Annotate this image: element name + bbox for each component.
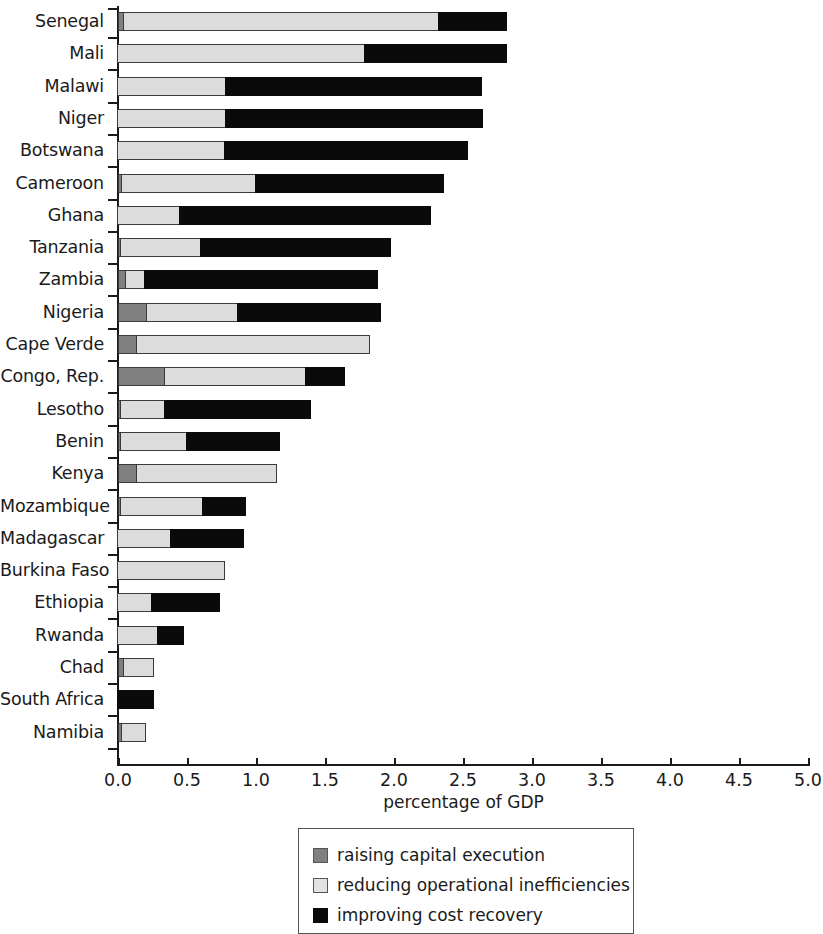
bar-row: Kenya	[0, 458, 823, 489]
legend-item-recovery: improving cost recovery	[313, 900, 633, 930]
bar-segment-capital	[118, 464, 137, 483]
x-axis-tick-label: 3.0	[502, 770, 562, 790]
bar-segment-recovery	[200, 238, 390, 257]
stacked-bar	[118, 723, 146, 742]
stacked-bar	[118, 497, 246, 516]
y-axis-category-label: Congo, Rep.	[0, 361, 104, 392]
x-axis-tick	[670, 758, 672, 766]
bar-row: Benin	[0, 426, 823, 457]
y-axis-category-label: Tanzania	[0, 232, 104, 263]
legend-label-operational: reducing operational inefficiencies	[337, 875, 630, 895]
x-axis-tick-label: 0.0	[88, 770, 148, 790]
bar-row: Ethiopia	[0, 587, 823, 618]
bar-segment-operational	[123, 12, 439, 31]
bar-segment-recovery	[364, 44, 506, 63]
y-axis-category-label: Cameroon	[0, 168, 104, 199]
bar-row: Madagascar	[0, 523, 823, 554]
y-axis-category-label: Botswana	[0, 135, 104, 166]
bar-row: Senegal	[0, 6, 823, 37]
x-axis-tick	[187, 758, 189, 766]
legend-swatch-capital-icon	[313, 848, 328, 863]
stacked-bar	[118, 464, 277, 483]
y-axis-tick	[108, 522, 118, 524]
x-axis-tick	[394, 758, 396, 766]
y-axis-tick	[108, 295, 118, 297]
bar-segment-recovery	[151, 593, 220, 612]
bar-row: Mali	[0, 38, 823, 69]
x-axis-tick	[532, 758, 534, 766]
stacked-bar	[118, 206, 431, 225]
y-axis-tick	[108, 457, 118, 459]
y-axis-category-label: South Africa	[0, 684, 104, 715]
y-axis-tick	[108, 37, 118, 39]
stacked-bar	[118, 367, 345, 386]
stacked-bar	[118, 593, 220, 612]
stacked-bar	[118, 12, 507, 31]
bar-segment-recovery	[255, 174, 444, 193]
x-axis-tick	[601, 758, 603, 766]
x-axis-tick	[325, 758, 327, 766]
stacked-bar	[118, 238, 391, 257]
x-axis-tick	[118, 758, 120, 766]
y-axis-category-label: Lesotho	[0, 394, 104, 425]
bar-segment-operational	[125, 270, 144, 289]
bar-row: Congo, Rep.	[0, 361, 823, 392]
bar-segment-recovery	[144, 270, 379, 289]
stacked-bar	[118, 432, 280, 451]
bar-segment-operational	[136, 464, 277, 483]
bar-row: Namibia	[0, 717, 823, 748]
y-axis-tick	[108, 683, 118, 685]
stacked-bar	[118, 658, 154, 677]
stacked-bar	[118, 626, 184, 645]
x-axis-title: percentage of GDP	[0, 792, 823, 812]
y-axis-tick	[108, 554, 118, 556]
y-axis-category-label: Ethiopia	[0, 587, 104, 618]
bar-segment-recovery	[186, 432, 280, 451]
y-axis-category-label: Nigeria	[0, 297, 104, 328]
bar-segment-recovery	[305, 367, 345, 386]
bar-segment-capital	[118, 367, 165, 386]
y-axis-category-label: Mali	[0, 38, 104, 69]
bar-segment-operational	[117, 561, 225, 580]
y-axis-category-label: Madagascar	[0, 523, 104, 554]
bar-segment-recovery	[237, 303, 381, 322]
y-axis-tick	[108, 618, 118, 620]
stacked-bar	[118, 561, 225, 580]
stacked-bar	[118, 529, 244, 548]
stacked-bar	[118, 141, 468, 160]
legend-item-operational: reducing operational inefficiencies	[313, 870, 633, 900]
x-axis-tick-label: 1.0	[226, 770, 286, 790]
bar-row: Nigeria	[0, 297, 823, 328]
bar-segment-operational	[117, 626, 158, 645]
bar-row: Malawi	[0, 71, 823, 102]
bar-row: Rwanda	[0, 620, 823, 651]
y-axis-tick	[108, 263, 118, 265]
y-axis-category-label: Niger	[0, 103, 104, 134]
bar-segment-recovery	[225, 109, 483, 128]
x-axis-tick	[463, 758, 465, 766]
legend-swatch-recovery-icon	[313, 908, 328, 923]
bar-segment-recovery	[202, 497, 246, 516]
bar-segment-operational	[120, 497, 203, 516]
y-axis-category-label: Cape Verde	[0, 329, 104, 360]
y-axis-category-label: Chad	[0, 652, 104, 683]
bar-row: Ghana	[0, 200, 823, 231]
bar-row: Tanzania	[0, 232, 823, 263]
y-axis-tick	[108, 586, 118, 588]
bar-segment-operational	[117, 77, 226, 96]
x-axis-tick-label: 5.0	[778, 770, 823, 790]
stacked-bar	[118, 690, 154, 709]
y-axis-category-label: Rwanda	[0, 620, 104, 651]
bar-segment-recovery	[438, 12, 507, 31]
stacked-bar	[118, 400, 311, 419]
stacked-bar	[118, 303, 381, 322]
bar-segment-operational	[117, 141, 225, 160]
legend-swatch-operational-icon	[313, 878, 328, 893]
y-axis-category-label: Benin	[0, 426, 104, 457]
bar-segment-recovery	[224, 141, 468, 160]
y-axis-tick	[108, 8, 118, 10]
stacked-bar	[118, 44, 507, 63]
y-axis-tick	[108, 715, 118, 717]
bar-row: South Africa	[0, 684, 823, 715]
y-axis-category-label: Kenya	[0, 458, 104, 489]
